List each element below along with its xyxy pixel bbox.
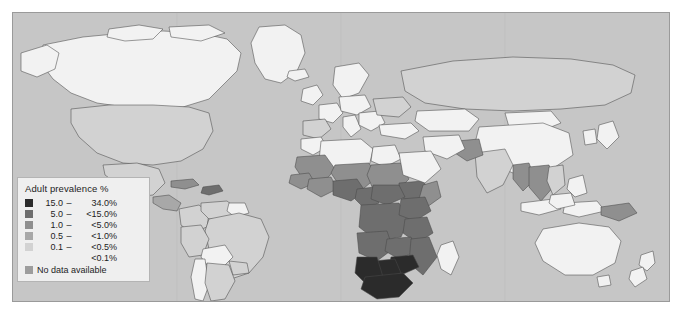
legend-dash: – — [63, 220, 75, 230]
legend-row-nodata: No data available — [25, 264, 143, 275]
legend-row: 0.1 – <0.5% — [25, 241, 143, 252]
country-united-states — [71, 105, 213, 165]
region-europe — [287, 63, 419, 139]
legend-low: 1.0 — [37, 220, 63, 230]
region-oceania — [535, 203, 655, 287]
world-map-figure: Adult prevalence % 15.0 – 34.0% 5.0 – <1… — [0, 0, 679, 318]
legend-high: <15.0% — [75, 209, 117, 219]
country-new-zealand-south — [629, 267, 647, 287]
legend-dash: – — [63, 198, 75, 208]
country-iceland — [287, 69, 309, 81]
legend-row: 5.0 – <15.0% — [25, 208, 143, 219]
legend-high: 34.0% — [75, 198, 117, 208]
country-south-africa — [361, 273, 413, 299]
legend-nodata-label: No data available — [37, 265, 107, 275]
legend-dash: – — [63, 242, 75, 252]
legend-high: <0.5% — [75, 242, 117, 252]
legend-row-below: <0.1% — [25, 252, 143, 263]
region-south-america — [179, 201, 269, 301]
legend-row: 1.0 – <5.0% — [25, 219, 143, 230]
legend-dash: – — [63, 231, 75, 241]
country-haiti-dominican — [201, 185, 223, 195]
country-spain-portugal — [303, 119, 331, 139]
legend-swatch — [25, 210, 33, 218]
country-ukraine — [373, 97, 411, 117]
country-uk-ireland — [301, 85, 323, 105]
legend-high: <1.0% — [75, 231, 117, 241]
legend-swatch — [25, 221, 33, 229]
country-canada — [41, 31, 241, 109]
legend-dash: – — [63, 209, 75, 219]
legend-low: 5.0 — [37, 209, 63, 219]
country-cuba — [171, 179, 199, 189]
country-argentina — [205, 263, 235, 301]
legend-title: Adult prevalence % — [25, 183, 143, 194]
legend-high: <5.0% — [75, 220, 117, 230]
legend-swatch-nodata — [25, 266, 33, 274]
legend-row: 0.5 – <1.0% — [25, 230, 143, 241]
legend-swatch — [25, 232, 33, 240]
legend-swatch — [25, 199, 33, 207]
map-legend: Adult prevalence % 15.0 – 34.0% 5.0 – <1… — [17, 177, 150, 282]
country-turkey — [379, 123, 419, 139]
country-korea — [583, 129, 597, 145]
country-madagascar — [437, 241, 459, 275]
legend-low: 0.5 — [37, 231, 63, 241]
legend-low: 0.1 — [37, 242, 63, 252]
country-kazakhstan — [415, 109, 479, 131]
country-japan — [597, 121, 619, 149]
legend-swatch — [25, 243, 33, 251]
legend-low: 15.0 — [37, 198, 63, 208]
country-ivorycoast-ghana — [307, 177, 337, 197]
country-germany-poland — [339, 95, 371, 115]
country-papua-new-guinea — [601, 203, 637, 221]
legend-below-label: <0.1% — [75, 253, 117, 263]
legend-swatch-blank — [25, 254, 33, 262]
legend-row: 15.0 – 34.0% — [25, 197, 143, 208]
country-russia — [401, 57, 635, 111]
country-australia — [535, 223, 621, 275]
country-italy — [343, 115, 361, 137]
country-scandinavia — [333, 63, 369, 99]
country-tasmania — [597, 275, 611, 287]
map-frame: Adult prevalence % 15.0 – 34.0% 5.0 – <1… — [12, 12, 670, 302]
